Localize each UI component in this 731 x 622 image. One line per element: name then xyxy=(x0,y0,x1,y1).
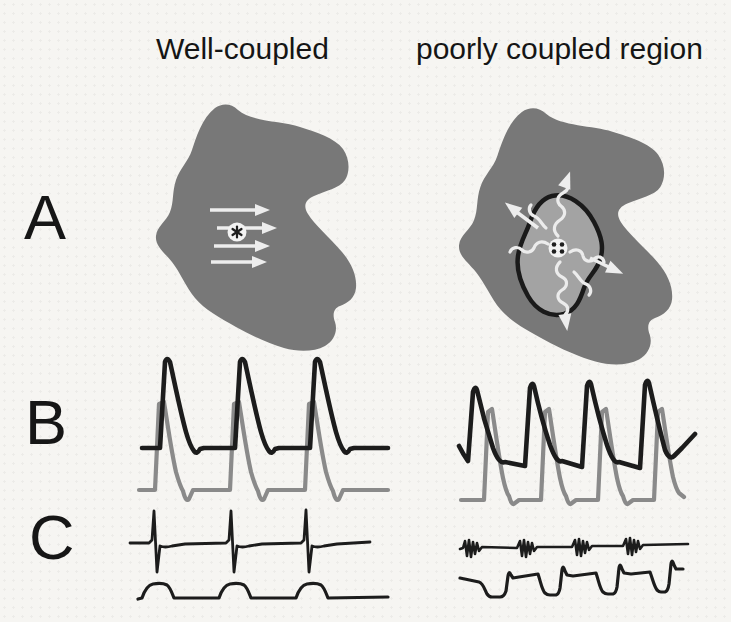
figure-canvas: Well-coupled poorly coupled region A B C xyxy=(0,0,731,622)
figure-artwork xyxy=(0,0,731,622)
electrode-icon-left xyxy=(228,223,247,242)
panel-b xyxy=(139,359,695,504)
electrode-circle xyxy=(549,239,568,258)
panel-c xyxy=(130,510,688,599)
b-left-black-action-potentials xyxy=(142,359,388,453)
c-left-monophasic-waves xyxy=(138,583,388,599)
panel-a-left xyxy=(156,104,356,350)
c-right-fractionated-electrogram xyxy=(460,538,688,557)
electrode-icon-right xyxy=(549,239,568,258)
c-left-sharp-electrogram xyxy=(130,510,370,572)
c-right-irregular-deflections xyxy=(460,561,683,597)
panel-a-right xyxy=(459,108,672,364)
